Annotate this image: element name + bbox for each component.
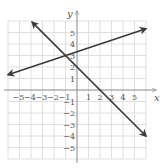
line-falling: [32, 22, 146, 136]
x-tick-label: 1: [86, 93, 91, 102]
y-tick-label: −2: [63, 109, 75, 118]
y-tick-label: 5: [70, 29, 75, 38]
x-tick-label: −2: [47, 93, 59, 102]
x-tick-label: −3: [36, 93, 48, 102]
y-tick-label: 4: [70, 40, 75, 49]
y-tick-label: 1: [70, 75, 75, 84]
x-tick-label: −4: [24, 93, 36, 102]
coordinate-plane: −5−4−3−2−11234554321−1−2−3−4−5 x y: [0, 0, 166, 168]
y-tick-label: −1: [63, 98, 75, 107]
x-axis-label: x: [154, 92, 160, 103]
x-tick-label: 4: [120, 93, 125, 102]
x-tick-label: −5: [13, 93, 25, 102]
y-tick-label: −5: [63, 144, 75, 153]
x-tick-label: 5: [132, 93, 137, 102]
y-tick-label: −4: [63, 132, 75, 141]
y-axis-label: y: [66, 8, 73, 19]
y-tick-label: −3: [63, 121, 75, 130]
x-tick-label: 2: [97, 93, 102, 102]
